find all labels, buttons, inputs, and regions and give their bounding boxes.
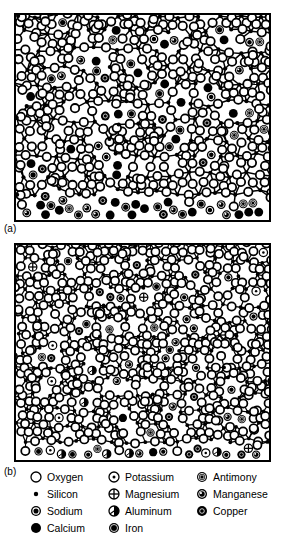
open-circle-icon — [30, 471, 42, 483]
legend-item-aluminum: Aluminum — [108, 502, 196, 519]
panel-b-network-drawing — [16, 245, 269, 460]
legend-label: Calcium — [47, 522, 85, 534]
filled-circle-ring-dot-icon — [30, 505, 42, 517]
legend-item-calcium: Calcium — [30, 519, 108, 536]
legend-label: Silicon — [47, 488, 78, 500]
panel-b-frame — [14, 243, 271, 462]
filled-circle-double-ring-icon — [196, 471, 208, 483]
panel-b-label: (b) — [4, 466, 16, 477]
panel-a-frame — [14, 13, 271, 222]
legend-item-antimony: Antimony — [196, 468, 283, 485]
legend-item-silicon: Silicon — [30, 485, 108, 502]
legend-label: Iron — [125, 522, 143, 534]
legend-label: Magnesium — [125, 488, 179, 500]
legend-label: Potassium — [125, 471, 174, 483]
solid-filled-circle-icon — [30, 522, 42, 534]
glass-structure-figure: (a) (b) OxygenSiliconSodiumCalciumPotass… — [0, 0, 285, 541]
filled-circle-thin-ring-icon — [108, 522, 120, 534]
panel-b — [14, 243, 271, 462]
panel-a-label: (a) — [4, 223, 16, 234]
legend-label: Sodium — [47, 505, 83, 517]
legend-item-manganese: Manganese — [196, 485, 283, 502]
legend-item-oxygen: Oxygen — [30, 468, 108, 485]
circle-center-dot-icon — [108, 471, 120, 483]
filled-circle-offset-dot-icon — [196, 488, 208, 500]
legend-label: Oxygen — [47, 471, 83, 483]
legend-item-iron: Iron — [108, 519, 196, 536]
legend-label: Manganese — [213, 488, 268, 500]
panel-a-network-drawing — [16, 15, 269, 220]
legend-item-copper: Copper — [196, 502, 283, 519]
legend-label: Antimony — [213, 471, 257, 483]
legend-item-magnesium: Magnesium — [108, 485, 196, 502]
circle-cross-icon — [108, 488, 120, 500]
legend: OxygenSiliconSodiumCalciumPotassiumMagne… — [30, 468, 283, 538]
panel-a — [14, 13, 271, 222]
legend-item-sodium: Sodium — [30, 502, 108, 519]
legend-label: Copper — [213, 505, 247, 517]
legend-label: Aluminum — [125, 505, 172, 517]
legend-item-potassium: Potassium — [108, 468, 196, 485]
filled-circle-small-ring-icon — [196, 505, 208, 517]
circle-diagonal-wedge-icon — [108, 505, 120, 517]
small-filled-dot-icon — [30, 488, 42, 500]
